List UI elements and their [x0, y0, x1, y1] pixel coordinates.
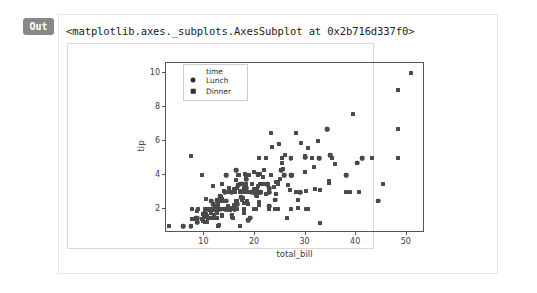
data-point-dinner	[285, 216, 289, 220]
data-point-dinner	[223, 199, 227, 203]
legend-label-lunch: Lunch	[206, 76, 228, 85]
data-point-dinner	[276, 182, 280, 186]
data-point-dinner	[304, 189, 308, 193]
x-tick-label: 10	[198, 237, 208, 246]
data-point-dinner	[219, 195, 223, 199]
data-point-dinner	[333, 162, 337, 166]
data-point-dinner	[316, 139, 320, 143]
data-point-dinner	[269, 173, 273, 177]
data-point-dinner	[355, 161, 359, 165]
data-point-dinner	[269, 131, 273, 135]
data-point-dinner	[296, 206, 300, 210]
y-tick	[162, 72, 165, 73]
data-point-dinner	[344, 173, 348, 177]
data-point-dinner	[303, 154, 307, 158]
y-tick	[162, 174, 165, 175]
data-point-dinner	[376, 199, 380, 203]
data-point-dinner	[286, 183, 290, 187]
data-point-dinner	[258, 182, 262, 186]
y-tick-label: 2	[143, 204, 160, 213]
chart-legend: time LunchDinner	[183, 64, 248, 101]
data-point-dinner	[273, 207, 277, 211]
data-point-dinner	[298, 190, 302, 194]
data-point-dinner	[224, 173, 228, 177]
data-point-dinner	[238, 224, 242, 228]
data-point-dinner	[195, 209, 199, 213]
x-tick-label: 50	[401, 237, 411, 246]
data-point-dinner	[409, 71, 413, 75]
data-point-dinner	[288, 188, 292, 192]
data-point-dinner	[278, 177, 282, 181]
data-point-dinner	[348, 190, 352, 194]
data-point-dinner	[351, 112, 355, 116]
x-tick-label: 20	[249, 237, 259, 246]
data-point-dinner	[240, 190, 244, 194]
data-point-dinner	[210, 216, 214, 220]
data-point-dinner	[234, 168, 238, 172]
data-point-dinner	[244, 182, 248, 186]
data-point-dinner	[325, 127, 329, 131]
data-point-dinner	[231, 216, 235, 220]
y-tick	[162, 208, 165, 209]
data-point-dinner	[299, 141, 303, 145]
data-point-dinner	[181, 224, 185, 228]
data-point-dinner	[381, 182, 385, 186]
screenshot-root: Out <matplotlib.axes._subplots.AxesSubpl…	[0, 0, 537, 293]
x-tick	[203, 232, 204, 235]
data-point-dinner	[252, 207, 256, 211]
y-tick-label: 8	[143, 102, 160, 111]
data-point-dinner	[234, 199, 238, 203]
data-point-dinner	[216, 224, 220, 228]
x-tick-label: 40	[350, 237, 360, 246]
x-axis-label: total_bill	[276, 249, 312, 259]
x-tick	[355, 232, 356, 235]
data-point-dinner	[190, 207, 194, 211]
data-point-dinner	[247, 173, 251, 177]
data-point-dinner	[200, 173, 204, 177]
data-point-dinner	[242, 211, 246, 215]
data-point-dinner	[247, 190, 251, 194]
data-point-dinner	[223, 190, 227, 194]
data-point-dinner	[246, 202, 250, 206]
data-point-dinner	[283, 153, 287, 157]
data-point-dinner	[220, 182, 224, 186]
data-point-dinner	[189, 224, 193, 228]
x-tick	[406, 232, 407, 235]
data-point-dinner	[195, 220, 199, 224]
legend-marker-lunch	[191, 78, 196, 83]
data-point-dinner	[267, 186, 271, 190]
data-point-dinner	[273, 198, 277, 202]
data-point-dinner	[262, 168, 266, 172]
data-point-dinner	[167, 224, 171, 228]
data-point-dinner	[230, 190, 234, 194]
data-point-dinner	[282, 173, 286, 177]
repr-text: <matplotlib.axes._subplots.AxesSubplot a…	[66, 25, 414, 37]
x-tick-label: 30	[300, 237, 310, 246]
x-tick	[305, 232, 306, 235]
data-point-dinner	[294, 190, 298, 194]
data-point-dinner	[213, 204, 217, 208]
data-point-dinner	[313, 187, 317, 191]
data-point-dinner	[318, 221, 322, 225]
data-point-dinner	[303, 170, 307, 174]
data-point-dinner	[203, 220, 207, 224]
data-point-dinner	[306, 146, 310, 150]
data-point-dinner	[246, 218, 250, 222]
legend-marker-dinner	[191, 89, 196, 94]
legend-label-dinner: Dinner	[206, 87, 231, 96]
data-point-dinner	[327, 179, 331, 183]
data-point-dinner	[328, 153, 332, 157]
data-point-dinner	[250, 182, 254, 186]
data-point-dinner	[211, 184, 215, 188]
data-point-dinner	[244, 177, 248, 181]
y-tick-label: 4	[143, 170, 160, 179]
data-point-dinner	[396, 88, 400, 92]
data-point-dinner	[264, 156, 268, 160]
data-point-dinner	[277, 142, 281, 146]
data-point-dinner	[234, 207, 238, 211]
data-point-dinner	[189, 154, 193, 158]
data-point-dinner	[191, 217, 195, 221]
data-point-dinner	[357, 190, 361, 194]
data-point-dinner	[312, 165, 316, 169]
data-point-dinner	[236, 173, 240, 177]
